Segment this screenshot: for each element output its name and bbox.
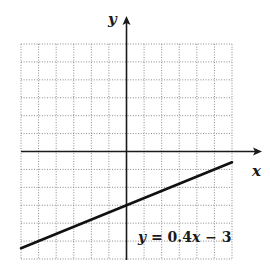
y-axis-label: y [107, 10, 118, 28]
linear-function-graph: y x y = 0.4x − 3 [0, 0, 270, 269]
equation-rest: − 3 [200, 229, 231, 245]
equation-eq: = 0.4 [146, 229, 192, 245]
x-axis-label: x [251, 162, 262, 180]
equation-label: y = 0.4x − 3 [137, 229, 232, 245]
